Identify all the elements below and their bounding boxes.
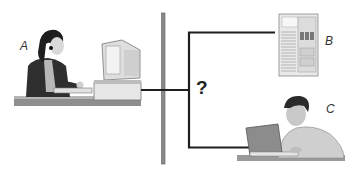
node-label-b: B (325, 34, 333, 48)
node-label-c: C (326, 102, 335, 116)
network-backbone (162, 13, 166, 164)
unknown-connection-question-mark: ? (196, 77, 208, 99)
diagram-canvas (0, 0, 360, 175)
node-label-a: A (20, 39, 28, 53)
person-a-illustration (14, 30, 141, 106)
server-b-illustration (279, 14, 318, 76)
